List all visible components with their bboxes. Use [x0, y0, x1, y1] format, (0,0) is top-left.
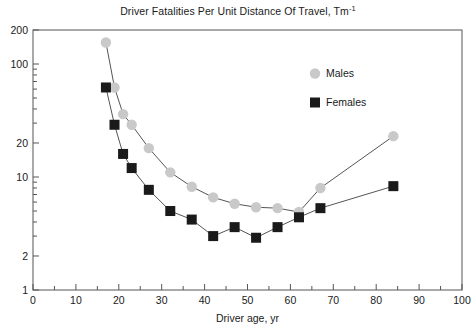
- y-tick-label-200: 200: [10, 24, 28, 36]
- x-tick-label-10: 10: [70, 294, 82, 306]
- plot-area: 121020100200 0102030405060708090100 Driv…: [0, 0, 476, 334]
- data-point-marker: [315, 183, 325, 193]
- x-tick-label-90: 90: [413, 294, 425, 306]
- x-tick-label-40: 40: [199, 294, 211, 306]
- y-tick-label-100: 100: [10, 58, 28, 70]
- data-point-marker: [208, 231, 218, 241]
- x-tick-label-30: 30: [156, 294, 168, 306]
- data-point-marker: [230, 222, 240, 232]
- legend-marker-males: [310, 68, 320, 78]
- data-point-marker: [144, 185, 154, 195]
- y-tick-label-1: 1: [22, 284, 28, 296]
- plot-frame: [33, 30, 462, 290]
- y-axis-minor-ticks: [33, 69, 37, 236]
- data-point-marker: [118, 109, 128, 119]
- legend-label-females: Females: [326, 96, 366, 108]
- x-tick-label-20: 20: [113, 294, 125, 306]
- data-point-marker: [388, 131, 398, 141]
- y-tick-label-20: 20: [16, 137, 28, 149]
- x-tick-label-70: 70: [327, 294, 339, 306]
- legend-label-males: Males: [326, 67, 354, 79]
- data-point-marker: [101, 82, 111, 92]
- x-axis-title: Driver age, yr: [216, 312, 280, 324]
- x-tick-label-50: 50: [242, 294, 254, 306]
- x-tick-label-80: 80: [370, 294, 382, 306]
- data-point-marker: [251, 202, 261, 212]
- data-point-marker: [208, 192, 218, 202]
- data-point-marker: [315, 203, 325, 213]
- data-point-marker: [251, 233, 261, 243]
- data-point-marker: [165, 167, 175, 177]
- x-axis-tick-labels: 0102030405060708090100: [30, 294, 471, 306]
- x-tick-label-60: 60: [285, 294, 297, 306]
- data-point-marker: [165, 206, 175, 216]
- data-point-marker: [118, 149, 128, 159]
- legend-marker-females: [310, 98, 320, 108]
- data-point-marker: [229, 199, 239, 209]
- data-point-marker: [187, 182, 197, 192]
- y-tick-label-10: 10: [16, 171, 28, 183]
- chart-legend: MalesFemales: [310, 67, 366, 108]
- data-point-marker: [273, 222, 283, 232]
- x-tick-label-0: 0: [30, 294, 36, 306]
- x-tick-label-100: 100: [453, 294, 471, 306]
- y-axis-tick-labels: 121020100200: [10, 24, 28, 296]
- axes: 121020100200 0102030405060708090100 Driv…: [10, 24, 470, 324]
- data-point-marker: [126, 120, 136, 130]
- y-tick-label-2: 2: [22, 250, 28, 262]
- series-line-females: [106, 87, 393, 237]
- data-point-marker: [187, 215, 197, 225]
- data-point-marker: [272, 203, 282, 213]
- data-point-marker: [144, 143, 154, 153]
- data-point-marker: [110, 120, 120, 130]
- data-point-marker: [388, 181, 398, 191]
- chart-figure: Driver Fatalities Per Unit Distance Of T…: [0, 0, 476, 334]
- data-point-marker: [127, 163, 137, 173]
- data-point-marker: [294, 212, 304, 222]
- data-point-marker: [101, 37, 111, 47]
